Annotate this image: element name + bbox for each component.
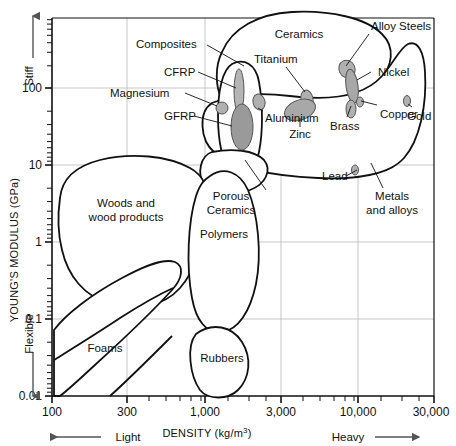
label-gold: Gold [407, 110, 431, 122]
label-porous-ceramics-line2: Ceramics [207, 204, 256, 216]
label-flexible: Flexible [23, 314, 35, 354]
label-heavy: Heavy [332, 431, 365, 443]
label-cfrp: CFRP [164, 66, 196, 78]
label-ceramics: Ceramics [275, 28, 324, 40]
label-woods-line1: Woods and [97, 197, 155, 209]
bubble-gfrp [231, 104, 253, 150]
x-tick-300: 300 [117, 405, 137, 419]
x-tick-10000: 10,000 [340, 405, 377, 419]
label-aluminium: Aluminium [265, 112, 319, 124]
label-zinc: Zinc [289, 128, 311, 140]
y-tick-10: 10 [29, 158, 43, 172]
y-axis-title: YOUNG'S MODULUS (GPa) [8, 178, 20, 322]
x-axis-title-tail: ) [248, 427, 252, 439]
label-titanium: Titanium [254, 53, 298, 65]
label-woods-line2: wood products [88, 211, 164, 223]
label-metals-and-alloys-line1: Metals [375, 190, 409, 202]
label-porous-ceramics-line1: Porous [213, 190, 250, 202]
bubble-lead [352, 165, 359, 175]
bubble-copper [357, 97, 364, 107]
label-nickel: Nickel [378, 66, 409, 78]
label-composites: Composites [136, 38, 197, 50]
x-tick-1000: 1,000 [190, 405, 220, 419]
x-tick-3000: 3,000 [266, 405, 296, 419]
x-tick-30000: 30,000 [413, 405, 450, 419]
y-tick-1: 1 [35, 235, 42, 249]
label-magnesium: Magnesium [110, 87, 169, 99]
label-stiff: Stiff [23, 65, 35, 85]
x-axis-title-main: DENSITY (kg/m [162, 427, 243, 439]
label-brass: Brass [330, 120, 360, 132]
label-metals-and-alloys-line2: and alloys [366, 204, 418, 216]
label-gfrp: GFRP [164, 110, 196, 122]
young-modulus-vs-density-chart: Composites CFRP Magnesium GFRP Titanium … [0, 0, 456, 446]
x-axis-title: DENSITY (kg/m3) [162, 426, 251, 439]
ashby-chart-figure: Composites CFRP Magnesium GFRP Titanium … [0, 0, 456, 446]
bubble-magnesium [216, 102, 228, 114]
x-tick-100: 100 [42, 405, 62, 419]
label-lead: Lead [322, 170, 348, 182]
label-alloy-steels: Alloy Steels [371, 20, 431, 32]
y-tick-0p01: 0.01 [19, 389, 43, 403]
svg-text:DENSITY (kg/m3): DENSITY (kg/m3) [162, 426, 251, 439]
label-light: Light [116, 431, 142, 443]
label-polymers: Polymers [200, 228, 248, 240]
label-foams: Foams [87, 342, 122, 354]
label-rubbers: Rubbers [200, 352, 244, 364]
